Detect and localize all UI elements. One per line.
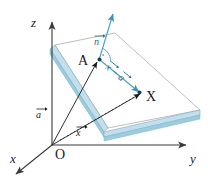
right-angle-dot xyxy=(102,54,104,56)
plane-surface xyxy=(50,33,200,141)
diagram-canvas xyxy=(0,0,208,181)
x-axis-line xyxy=(16,145,52,174)
vector-plane-diagram: z y x O A X n a xyxy=(0,0,208,181)
point-x-marker xyxy=(138,91,142,95)
point-a-marker xyxy=(98,58,102,62)
